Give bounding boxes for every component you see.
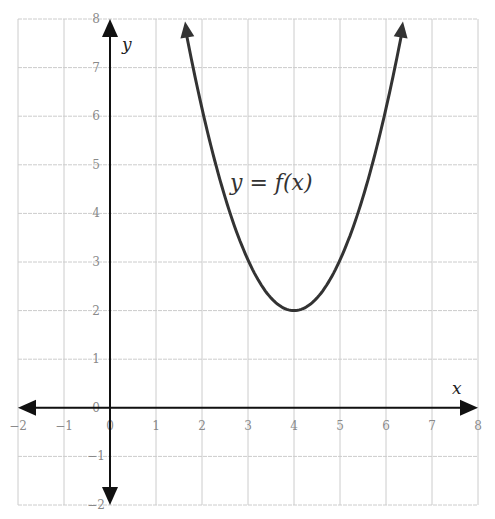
svg-text:4: 4 <box>290 419 298 433</box>
svg-text:6: 6 <box>92 109 100 123</box>
svg-text:1: 1 <box>92 352 100 366</box>
y-axis-label: y <box>121 34 132 54</box>
svg-text:8: 8 <box>92 12 100 26</box>
function-label: y = f(x) <box>229 170 313 195</box>
svg-text:7: 7 <box>428 419 436 433</box>
x-axis-label: x <box>452 378 462 398</box>
svg-text:5: 5 <box>92 158 100 172</box>
svg-text:6: 6 <box>382 419 390 433</box>
svg-text:8: 8 <box>474 419 482 433</box>
function-graph: −2−1012345678−2−1012345678 x y y = f(x) <box>0 0 495 519</box>
svg-text:−2: −2 <box>87 498 105 512</box>
svg-text:2: 2 <box>198 419 206 433</box>
svg-text:4: 4 <box>92 206 100 220</box>
svg-text:2: 2 <box>92 304 100 318</box>
svg-text:7: 7 <box>92 61 100 75</box>
svg-text:−1: −1 <box>87 449 105 463</box>
svg-text:1: 1 <box>152 419 160 433</box>
svg-text:−1: −1 <box>55 419 73 433</box>
svg-text:3: 3 <box>92 255 100 269</box>
svg-text:−2: −2 <box>9 419 27 433</box>
svg-text:3: 3 <box>244 419 252 433</box>
svg-text:5: 5 <box>336 419 344 433</box>
